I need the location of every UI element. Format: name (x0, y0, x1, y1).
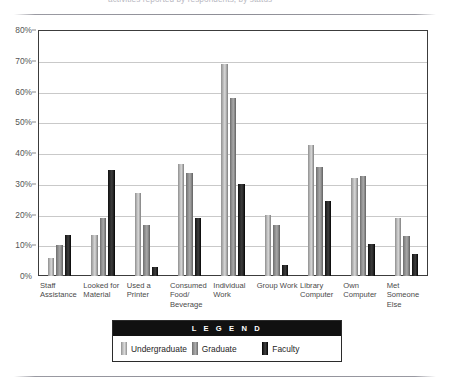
y-axis-tick-mark (32, 91, 36, 92)
divider-top (14, 14, 436, 15)
x-axis-category-label: Own Computer (341, 281, 384, 309)
y-axis-tick-mark (32, 122, 36, 123)
gridline (39, 216, 427, 217)
legend-item: Undergraduate (121, 342, 192, 355)
gridline (39, 246, 427, 247)
gridline (39, 62, 427, 63)
gridline (39, 154, 427, 155)
y-axis-tick-label: 30% (15, 180, 32, 188)
y-axis-tick-label: 10% (15, 241, 32, 249)
divider-bottom (14, 376, 436, 377)
legend-item-label: Graduate (202, 344, 237, 354)
gridline (39, 185, 427, 186)
gridline (39, 93, 427, 94)
y-axis-tick-mark (32, 153, 36, 154)
y-axis-tick-label: 0% (20, 272, 32, 280)
y-axis-tick-label: 70% (15, 57, 32, 65)
legend-swatch-undergraduate (121, 342, 127, 355)
legend-swatch-graduate (192, 342, 198, 355)
y-axis-tick-mark (32, 214, 36, 215)
y-axis-tick-label: 50% (15, 118, 32, 126)
y-axis-tick-label: 80% (15, 26, 32, 34)
legend-item-label: Undergraduate (131, 344, 187, 354)
x-axis-category-label: Group Work (255, 281, 298, 309)
caption-text: activities reported by respondents, by s… (108, 0, 272, 4)
chart-page: activities reported by respondents, by s… (0, 0, 450, 384)
x-axis-category-label: Library Computer (298, 281, 341, 309)
legend-swatch-faculty (262, 342, 268, 355)
y-axis-tick-label: 40% (15, 149, 32, 157)
y-axis-tick-label: 60% (15, 87, 32, 95)
x-axis-category-label: Used a Printer (125, 281, 168, 309)
legend: L E G E N D UndergraduateGraduateFaculty (112, 320, 342, 362)
legend-title: L E G E N D (113, 321, 341, 336)
y-axis-tick-label: 20% (15, 210, 32, 218)
gridline (39, 123, 427, 124)
gridlines (39, 31, 427, 275)
chart-plot-frame (38, 30, 428, 276)
x-axis-category-label: Met Someone Else (385, 281, 428, 309)
x-axis-category-label: Looked for Material (81, 281, 124, 309)
legend-items: UndergraduateGraduateFaculty (113, 336, 341, 361)
y-axis-tick-mark (32, 30, 36, 31)
y-axis-tick-mark (32, 183, 36, 184)
legend-item-label: Faculty (272, 344, 299, 354)
y-axis-tick-mark (32, 60, 36, 61)
x-axis-category-label: Staff Assistance (38, 281, 81, 309)
legend-item: Faculty (262, 342, 333, 355)
x-axis-labels: Staff AssistanceLooked for MaterialUsed … (38, 281, 428, 309)
clipped-caption-strip: activities reported by respondents, by s… (0, 0, 450, 9)
legend-item: Graduate (192, 342, 263, 355)
y-axis-tick-mark (32, 245, 36, 246)
x-axis-category-label: Individual Work (211, 281, 254, 309)
y-axis: 0%10%20%30%40%50%60%70%80% (0, 30, 36, 276)
x-axis-category-label: Consumed Food/ Beverage (168, 281, 211, 309)
